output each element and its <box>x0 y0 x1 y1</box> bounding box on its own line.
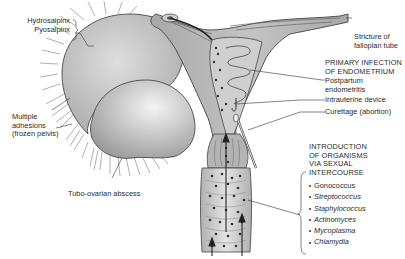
organism-item: Streptococcus <box>309 191 366 202</box>
label-postpartum-endometritis: Postpartum endometritis <box>325 77 365 94</box>
label-introduction-of-organisms: INTRODUCTION OF ORGANISMS VIA SEXUAL INT… <box>309 143 368 177</box>
pelvic-infection-diagram: Hydrosalpinx Pyosalpinx Multiple adhesio… <box>0 0 405 259</box>
label-stricture: Stricture of fallopian tube <box>354 33 398 50</box>
label-curettage: Curettage (abortion) <box>325 108 391 117</box>
label-primary-infection: PRIMARY INFECTION OF ENDOMETRIUM <box>325 59 402 76</box>
label-iud: Intrauterine device <box>325 96 386 105</box>
label-multiple-adhesions: Multiple adhesions (frozen pelvis) <box>12 113 58 139</box>
organism-item: Gonococcus <box>309 180 366 191</box>
organism-item: Actinomyces <box>309 214 366 225</box>
label-tubo-ovarian-abscess: Tubo-ovarian abscess <box>68 190 140 199</box>
organism-item: Mycoplasma <box>309 225 366 236</box>
organism-list: Gonococcus Streptococcus Staphylococcus … <box>309 180 366 248</box>
organism-item: Chlamydia <box>309 236 366 247</box>
organism-item: Staphylococcus <box>309 203 366 214</box>
label-hydrosalpinx: Hydrosalpinx Pyosalpinx <box>20 17 70 34</box>
